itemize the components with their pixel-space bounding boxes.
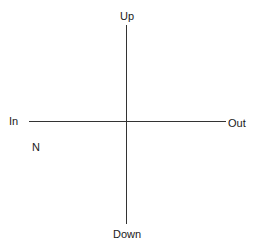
vertical-axis-line [126,25,127,224]
out-label: Out [228,117,246,129]
n-label: N [32,141,40,153]
down-label: Down [113,228,141,240]
axis-diagram: Up Down In Out N [0,0,255,243]
horizontal-axis-line [29,121,226,122]
up-label: Up [120,10,134,22]
in-label: In [9,115,18,127]
